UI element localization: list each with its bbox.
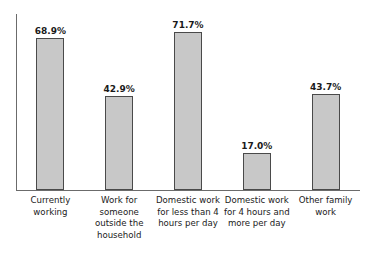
- bar-slot: 68.9%: [16, 14, 85, 190]
- bar[interactable]: [243, 153, 271, 190]
- bar-slot: 43.7%: [291, 14, 360, 190]
- bar-slot: 42.9%: [85, 14, 154, 190]
- bar-slot: 17.0%: [222, 14, 291, 190]
- category-label: Currently working: [16, 195, 85, 218]
- bar-value-label: 43.7%: [310, 82, 341, 92]
- x-axis-line: [16, 190, 360, 191]
- x-axis-category-labels: Currently working Work for someone outsi…: [16, 195, 360, 267]
- bar-chart: 68.9% 42.9% 71.7% 17.0% 43.7% Currently …: [0, 0, 377, 267]
- bar-value-label: 17.0%: [241, 141, 272, 151]
- category-label: Domestic work for less than 4 hours per …: [154, 195, 223, 230]
- bar[interactable]: [312, 94, 340, 190]
- bar[interactable]: [36, 38, 64, 190]
- bar-slot: 71.7%: [154, 14, 223, 190]
- category-label: Domestic work for 4 hours and more per d…: [222, 195, 291, 230]
- category-label: Other family work: [291, 195, 360, 218]
- plot-area: 68.9% 42.9% 71.7% 17.0% 43.7%: [16, 14, 360, 190]
- bar-value-label: 42.9%: [104, 84, 135, 94]
- bar-series: 68.9% 42.9% 71.7% 17.0% 43.7%: [16, 14, 360, 190]
- category-label: Work for someone outside the household: [85, 195, 154, 241]
- cropped-title-remnant: [0, 0, 377, 6]
- bar-value-label: 68.9%: [35, 26, 66, 36]
- bar-value-label: 71.7%: [172, 20, 203, 30]
- bar[interactable]: [174, 32, 202, 190]
- bar[interactable]: [105, 96, 133, 190]
